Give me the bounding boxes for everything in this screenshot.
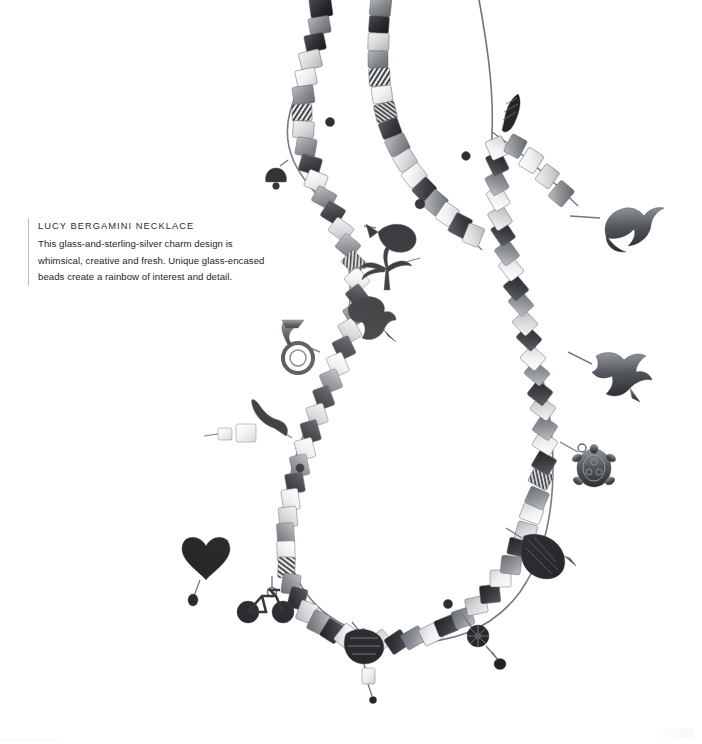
pinecone-charm (502, 94, 520, 132)
heart-charm (182, 537, 230, 606)
caption-line-1: This glass-and-sterling-silver charm des… (38, 236, 260, 253)
caption-title: LUCY BERGAMINI NECKLACE (38, 218, 260, 234)
hummingbird-charm (568, 352, 652, 402)
caption-body: This glass-and-sterling-silver charm des… (38, 236, 260, 286)
bell-charm (265, 160, 288, 189)
chili-pepper-charm (204, 400, 292, 442)
necklace-photograph (0, 0, 702, 744)
photo-corner-artifact (650, 728, 694, 738)
photo-edge-artifact (0, 738, 60, 742)
dolphin-charm (570, 207, 664, 252)
fish-charm (364, 224, 416, 252)
caption-line-3: beads create a rainbow of interest and d… (38, 269, 260, 286)
turtle-charm (560, 442, 617, 487)
french-horn-charm (282, 320, 320, 373)
flower-charm (462, 614, 506, 670)
caption-block: LUCY BERGAMINI NECKLACE This glass-and-s… (28, 218, 260, 286)
catalog-page: LUCY BERGAMINI NECKLACE This glass-and-s… (0, 0, 702, 744)
caption-line-2: whimsical, creative and fresh. Unique gl… (38, 253, 260, 270)
